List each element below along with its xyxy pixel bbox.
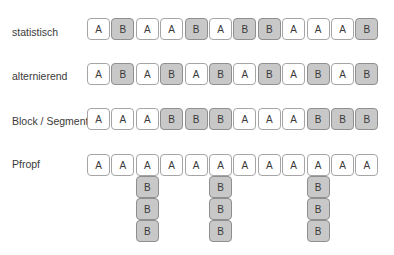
monomer-a: A xyxy=(111,108,134,130)
monomer-b: B xyxy=(111,63,134,85)
monomer-a: A xyxy=(185,154,208,176)
monomer-b: B xyxy=(111,18,134,40)
monomer-b: B xyxy=(355,18,378,40)
row-label-alternierend: alternierend xyxy=(12,69,67,83)
monomer-a: A xyxy=(307,18,330,40)
monomer-a: A xyxy=(136,154,159,176)
monomer-b: B xyxy=(185,18,208,40)
row-label-block-segment: Block / Segment xyxy=(12,114,88,128)
graft-branch-monomer-b: B xyxy=(136,220,159,242)
monomer-a: A xyxy=(307,154,330,176)
monomer-a: A xyxy=(282,18,305,40)
graft-branch-monomer-b: B xyxy=(209,176,232,198)
graft-branch-monomer-b: B xyxy=(209,220,232,242)
monomer-a: A xyxy=(209,18,232,40)
graft-branch-monomer-b: B xyxy=(307,176,330,198)
monomer-a: A xyxy=(185,63,208,85)
monomer-a: A xyxy=(233,63,256,85)
monomer-b: B xyxy=(160,108,183,130)
graft-branch-monomer-b: B xyxy=(136,176,159,198)
monomer-a: A xyxy=(136,108,159,130)
monomer-a: A xyxy=(258,154,281,176)
monomer-b: B xyxy=(355,63,378,85)
monomer-a: A xyxy=(87,63,110,85)
monomer-a: A xyxy=(233,154,256,176)
row-label-statistisch: statistisch xyxy=(12,25,58,39)
monomer-a: A xyxy=(111,154,134,176)
monomer-b: B xyxy=(160,63,183,85)
graft-branch-monomer-b: B xyxy=(136,198,159,220)
monomer-a: A xyxy=(160,154,183,176)
graft-branch-monomer-b: B xyxy=(307,220,330,242)
row-label-pfropf: Pfropf xyxy=(12,157,40,171)
monomer-a: A xyxy=(282,108,305,130)
monomer-a: A xyxy=(331,63,354,85)
monomer-b: B xyxy=(307,63,330,85)
monomer-a: A xyxy=(258,108,281,130)
monomer-a: A xyxy=(160,18,183,40)
monomer-a: A xyxy=(87,154,110,176)
monomer-a: A xyxy=(355,154,378,176)
monomer-b: B xyxy=(185,108,208,130)
monomer-a: A xyxy=(209,154,232,176)
monomer-a: A xyxy=(87,108,110,130)
monomer-b: B xyxy=(331,108,354,130)
monomer-b: B xyxy=(209,63,232,85)
monomer-b: B xyxy=(209,108,232,130)
monomer-a: A xyxy=(282,154,305,176)
monomer-a: A xyxy=(282,63,305,85)
monomer-b: B xyxy=(258,18,281,40)
monomer-a: A xyxy=(87,18,110,40)
graft-branch-monomer-b: B xyxy=(307,198,330,220)
monomer-a: A xyxy=(331,18,354,40)
monomer-a: A xyxy=(233,108,256,130)
monomer-b: B xyxy=(355,108,378,130)
monomer-a: A xyxy=(331,154,354,176)
monomer-b: B xyxy=(258,63,281,85)
monomer-b: B xyxy=(307,108,330,130)
monomer-b: B xyxy=(233,18,256,40)
graft-branch-monomer-b: B xyxy=(209,198,232,220)
monomer-a: A xyxy=(136,63,159,85)
monomer-a: A xyxy=(136,18,159,40)
